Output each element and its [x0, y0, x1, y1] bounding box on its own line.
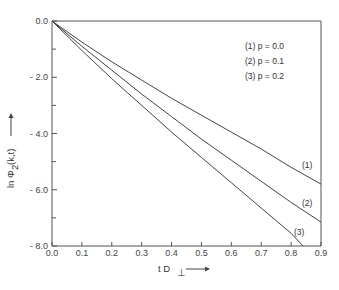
- legend-item-1: (1) p = 0.0: [245, 41, 284, 51]
- x-tick-label: 0.7: [255, 248, 268, 258]
- x-tick-label: 0.1: [76, 248, 89, 258]
- x-tick-label: 0.0: [46, 248, 59, 258]
- x-tick-label: 0.9: [315, 248, 328, 258]
- x-tick-label: 0.4: [165, 248, 178, 258]
- arrow-right-icon: [205, 267, 210, 272]
- line-chart: 0.0- 2.0- 4.0- 6.0- 8.0 0.00.10.20.30.40…: [0, 0, 339, 290]
- curve-label-2: (2): [302, 198, 313, 208]
- y-tick-label: - 2.0: [30, 72, 48, 82]
- svg-text:(k,t): (k,t): [5, 149, 16, 165]
- svg-text:t D: t D: [158, 263, 170, 274]
- y-tick-label: 0.0: [35, 16, 48, 26]
- x-axis-ticks: 0.00.10.20.30.40.50.60.70.80.9: [46, 242, 328, 258]
- svg-text:⊥: ⊥: [177, 267, 186, 278]
- x-tick-label: 0.5: [195, 248, 208, 258]
- arrow-up-icon: [9, 113, 14, 118]
- x-axis-label: t D ⊥: [158, 263, 210, 278]
- y-tick-label: - 6.0: [30, 185, 48, 195]
- x-tick-label: 0.3: [135, 248, 148, 258]
- svg-text:ln Φ: ln Φ: [5, 170, 16, 188]
- curve-label-1: (1): [302, 160, 313, 170]
- legend-item-2: (2) p = 0.1: [245, 56, 284, 66]
- legend: (1) p = 0.0 (2) p = 0.1 (3) p = 0.2: [245, 41, 284, 81]
- series-line-2: [52, 21, 321, 222]
- x-tick-label: 0.2: [106, 248, 119, 258]
- x-tick-label: 0.8: [285, 248, 298, 258]
- curve-label-3: (3): [294, 227, 305, 237]
- y-axis-ticks: 0.0- 2.0- 4.0- 6.0- 8.0: [30, 16, 57, 251]
- data-series: [52, 21, 321, 246]
- legend-item-3: (3) p = 0.2: [245, 71, 284, 81]
- y-tick-label: - 4.0: [30, 129, 48, 139]
- series-line-3: [52, 21, 303, 246]
- x-tick-label: 0.6: [225, 248, 238, 258]
- y-axis-label: ln Φ 2 (k,t): [5, 113, 20, 188]
